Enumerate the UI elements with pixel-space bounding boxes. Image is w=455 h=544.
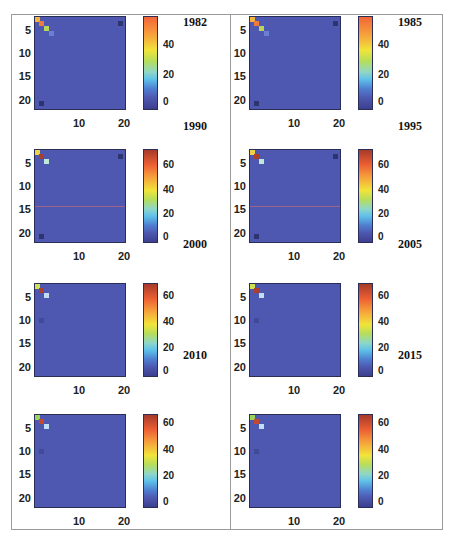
year-label: 2015	[398, 348, 422, 363]
colorbar-tick: 60	[378, 290, 389, 301]
xtick: 10	[288, 515, 300, 527]
colorbar-tick: 40	[163, 39, 174, 50]
ytick: 15	[13, 468, 31, 480]
colorbar-tick: 60	[378, 417, 389, 428]
ytick: 5	[13, 157, 31, 169]
ytick: 10	[228, 180, 246, 192]
ytick: 5	[13, 291, 31, 303]
xtick: 10	[288, 250, 300, 262]
xtick: 20	[333, 117, 345, 129]
heatmap-panel-2000: 5 10 15 20 10 20 0 20 40 60 2010	[11, 281, 226, 411]
year-label: 2000	[183, 237, 207, 252]
colorbar-tick: 40	[378, 316, 389, 327]
colorbar-tick: 0	[378, 231, 384, 242]
ytick: 5	[228, 24, 246, 36]
year-label: 1985	[398, 15, 422, 30]
ytick: 15	[228, 203, 246, 215]
ytick: 10	[228, 445, 246, 457]
colorbar-tick: 40	[163, 316, 174, 327]
heatmap-plot	[249, 149, 341, 243]
ytick: 20	[13, 227, 31, 239]
xtick: 10	[73, 384, 85, 396]
ytick: 5	[228, 291, 246, 303]
colorbar-tick: 60	[378, 159, 389, 170]
xtick: 20	[118, 515, 130, 527]
colorbar-tick: 0	[163, 365, 169, 376]
ytick: 10	[13, 47, 31, 59]
heatmap-panel-1985: 5 10 15 20 10 20 0 20 40 1985 1995	[226, 14, 441, 144]
heatmap-panel-1995: 5 10 15 20 10 20 0 20 40 60 2005	[226, 147, 441, 277]
xtick: 20	[118, 384, 130, 396]
heatmap-panel-2010: 5 10 15 20 10 20 0 20 40 60	[11, 412, 226, 542]
colorbar-tick: 20	[378, 470, 389, 481]
colorbar-tick: 0	[163, 231, 169, 242]
heatmap-plot	[249, 16, 341, 110]
colorbar	[358, 149, 373, 243]
ytick: 20	[228, 94, 246, 106]
year-label: 1982	[183, 15, 207, 30]
colorbar-tick: 40	[378, 184, 389, 195]
colorbar-tick: 40	[378, 444, 389, 455]
ytick: 10	[13, 180, 31, 192]
colorbar-tick: 60	[163, 417, 174, 428]
colorbar	[143, 414, 158, 508]
ytick: 20	[13, 492, 31, 504]
xtick: 20	[118, 117, 130, 129]
colorbar	[358, 414, 373, 508]
ytick: 5	[228, 157, 246, 169]
colorbar-tick: 20	[378, 208, 389, 219]
xtick: 10	[73, 250, 85, 262]
heatmap-panel-2015: 5 10 15 20 10 20 0 20 40 60	[226, 412, 441, 542]
colorbar-tick: 40	[378, 39, 389, 50]
ytick: 20	[13, 361, 31, 373]
ytick: 20	[228, 227, 246, 239]
ytick: 10	[228, 314, 246, 326]
heatmap-plot	[34, 149, 126, 243]
colorbar-tick: 20	[163, 470, 174, 481]
xtick: 20	[118, 250, 130, 262]
colorbar-tick: 40	[163, 444, 174, 455]
year-label: 1995	[398, 119, 422, 134]
heatmap-panel-1990: 5 10 15 20 10 20 0 20 40 60 2000	[11, 147, 226, 277]
ytick: 10	[13, 314, 31, 326]
xtick: 10	[73, 515, 85, 527]
ytick: 15	[13, 203, 31, 215]
colorbar	[143, 16, 158, 110]
year-label: 2005	[398, 237, 422, 252]
colorbar-tick: 0	[378, 496, 384, 507]
colorbar	[358, 283, 373, 377]
ytick: 10	[13, 445, 31, 457]
heatmap-plot	[249, 414, 341, 508]
colorbar-tick: 20	[163, 208, 174, 219]
colorbar	[143, 283, 158, 377]
year-label: 1990	[183, 119, 207, 134]
ytick: 20	[228, 361, 246, 373]
ytick: 10	[228, 47, 246, 59]
xtick: 10	[73, 117, 85, 129]
xtick: 20	[333, 384, 345, 396]
colorbar-tick: 40	[163, 184, 174, 195]
heatmap-panel-2005: 5 10 15 20 10 20 0 20 40 60 2015	[226, 281, 441, 411]
xtick: 20	[333, 515, 345, 527]
colorbar-tick: 20	[163, 69, 174, 80]
xtick: 10	[288, 384, 300, 396]
colorbar-tick: 0	[163, 496, 169, 507]
heatmap-plot	[34, 16, 126, 110]
ytick: 20	[228, 492, 246, 504]
colorbar-tick: 20	[378, 342, 389, 353]
ytick: 5	[13, 422, 31, 434]
heatmap-plot	[249, 283, 341, 377]
xtick: 20	[333, 250, 345, 262]
heatmap-plot	[34, 283, 126, 377]
ytick: 15	[13, 337, 31, 349]
colorbar-tick: 60	[163, 159, 174, 170]
ytick: 15	[228, 337, 246, 349]
colorbar-tick: 20	[378, 69, 389, 80]
colorbar-tick: 20	[163, 342, 174, 353]
colorbar	[358, 16, 373, 110]
heatmap-panel-1982: 5 10 15 20 10 20 0 20 40 1982 1990	[11, 14, 226, 144]
colorbar-tick: 0	[378, 365, 384, 376]
ytick: 15	[13, 70, 31, 82]
colorbar-tick: 0	[378, 96, 384, 107]
year-label: 2010	[183, 348, 207, 363]
